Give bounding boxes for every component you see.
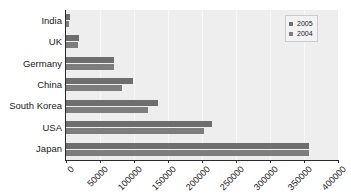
y-axis-label-china: China bbox=[0, 80, 62, 90]
bar-2004[interactable] bbox=[66, 21, 69, 27]
x-axis-tick-label-150000: 150000 bbox=[150, 164, 178, 192]
legend-swatch-2005 bbox=[289, 22, 293, 26]
bar-group bbox=[66, 117, 338, 138]
y-axis-line bbox=[65, 10, 66, 161]
bar-2004[interactable] bbox=[66, 85, 122, 91]
x-axis-tick-labels: 0500001000001500002000002500003000003500… bbox=[0, 160, 351, 196]
x-axis-tick-label-250000: 250000 bbox=[218, 164, 246, 192]
bar-2004[interactable] bbox=[66, 64, 114, 70]
y-axis-label-usa: USA bbox=[0, 123, 62, 133]
bar-group bbox=[66, 74, 338, 95]
bar-2004[interactable] bbox=[66, 150, 309, 156]
chart-legend: 2005 2004 bbox=[285, 15, 318, 42]
x-axis-tick-label-50000: 50000 bbox=[85, 164, 110, 189]
legend-label-2005: 2005 bbox=[297, 20, 313, 28]
bar-group bbox=[66, 53, 338, 74]
x-axis-tick-label-0: 0 bbox=[65, 164, 76, 175]
legend-swatch-2004 bbox=[289, 32, 293, 36]
x-axis-tick-label-400000: 400000 bbox=[320, 164, 348, 192]
y-axis-label-uk: UK bbox=[0, 37, 62, 47]
bar-group bbox=[66, 139, 338, 160]
x-axis-tick-mark bbox=[270, 160, 271, 163]
x-axis-tick-mark bbox=[100, 160, 101, 163]
bar-2005[interactable] bbox=[66, 143, 309, 149]
bar-group bbox=[66, 96, 338, 117]
chart-screenshot: IndiaUKGermanyChinaSouth KoreaUSAJapan 0… bbox=[0, 0, 351, 196]
x-axis-tick-mark bbox=[66, 160, 67, 163]
legend-item-2005[interactable]: 2005 bbox=[289, 19, 313, 28]
x-axis-tick-label-100000: 100000 bbox=[116, 164, 144, 192]
legend-item-2004[interactable]: 2004 bbox=[289, 29, 313, 38]
y-axis-label-india: India bbox=[0, 16, 62, 26]
bar-2004[interactable] bbox=[66, 42, 78, 48]
x-axis-tick-label-300000: 300000 bbox=[252, 164, 280, 192]
x-axis-tick-mark bbox=[304, 160, 305, 163]
x-axis-tick-mark bbox=[202, 160, 203, 163]
bar-chart-figure: IndiaUKGermanyChinaSouth KoreaUSAJapan 0… bbox=[0, 0, 351, 196]
y-axis-label-germany: Germany bbox=[0, 59, 62, 69]
x-axis-tick-mark bbox=[338, 160, 339, 163]
x-axis-tick-label-350000: 350000 bbox=[286, 164, 314, 192]
bar-2005[interactable] bbox=[66, 35, 79, 41]
y-axis-label-japan: Japan bbox=[0, 144, 62, 154]
bar-2005[interactable] bbox=[66, 57, 114, 63]
bar-2005[interactable] bbox=[66, 121, 212, 127]
x-axis-tick-mark bbox=[168, 160, 169, 163]
y-axis-category-labels: IndiaUKGermanyChinaSouth KoreaUSAJapan bbox=[0, 10, 62, 160]
y-axis-label-south-korea: South Korea bbox=[0, 101, 62, 111]
legend-label-2004: 2004 bbox=[297, 30, 313, 38]
bar-2004[interactable] bbox=[66, 128, 204, 134]
bar-2004[interactable] bbox=[66, 107, 148, 113]
x-axis-tick-label-200000: 200000 bbox=[184, 164, 212, 192]
bar-2005[interactable] bbox=[66, 100, 158, 106]
x-axis-tick-mark bbox=[236, 160, 237, 163]
bar-2005[interactable] bbox=[66, 14, 70, 20]
bar-2005[interactable] bbox=[66, 78, 133, 84]
x-axis-tick-mark bbox=[134, 160, 135, 163]
